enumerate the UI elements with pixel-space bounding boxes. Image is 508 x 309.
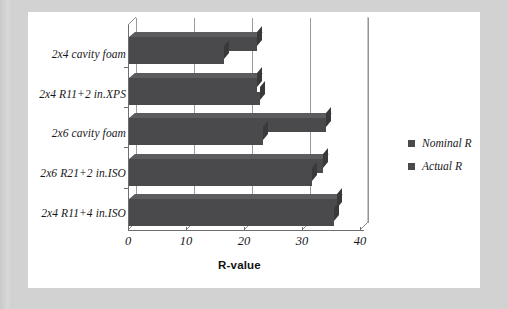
category-label-2: 2x6 cavity foam xyxy=(52,127,126,139)
x-tick-label-0: 0 xyxy=(113,234,143,249)
bar-nominal-2 xyxy=(129,118,326,132)
x-tick-2 xyxy=(244,227,245,231)
legend-label-actual: Actual R xyxy=(422,160,462,172)
bar-nominal-1 xyxy=(129,78,257,92)
bar-actual-4 xyxy=(129,213,334,226)
legend-swatch-icon xyxy=(408,163,415,170)
category-label-4: 2x4 R11+4 in.ISO xyxy=(41,207,126,219)
y-tick-1 xyxy=(124,107,129,108)
bar-top-face xyxy=(129,154,329,159)
plot-area: 2x4 cavity foam 2x4 R11+2 in.XPS 2x6 cav… xyxy=(28,12,480,288)
y-tick-3 xyxy=(124,188,129,189)
y-tick-2 xyxy=(124,147,129,148)
chart-legend: Nominal R Actual R xyxy=(408,137,488,187)
x-tick-0 xyxy=(128,227,129,231)
x-tick-1 xyxy=(186,227,187,231)
legend-swatch-icon xyxy=(408,140,415,147)
chart-screenshot: 2x4 cavity foam 2x4 R11+2 in.XPS 2x6 cav… xyxy=(0,0,508,309)
bar-top-face xyxy=(129,73,263,78)
bar-nominal-4 xyxy=(129,199,337,213)
bar-actual-3 xyxy=(129,173,312,186)
bar-nominal-0 xyxy=(129,37,257,51)
page-edge-shadow xyxy=(0,0,13,309)
x-tick-label-4: 40 xyxy=(345,234,375,249)
x-axis-title: R-value xyxy=(218,259,261,271)
legend-item-nominal: Nominal R xyxy=(408,137,472,149)
bar-actual-1 xyxy=(129,92,260,105)
legend-label-nominal: Nominal R xyxy=(422,137,472,149)
category-label-3: 2x6 R21+2 in.ISO xyxy=(40,167,126,179)
bar-top-face xyxy=(129,194,343,199)
y-tick-0 xyxy=(124,67,129,68)
bar-actual-2 xyxy=(129,132,263,145)
chart-panel: 2x4 cavity foam 2x4 R11+2 in.XPS 2x6 cav… xyxy=(28,12,480,288)
bar-actual-0 xyxy=(129,51,224,64)
category-label-1: 2x4 R11+2 in.XPS xyxy=(39,88,126,100)
x-tick-4 xyxy=(360,227,361,231)
x-tick-label-3: 30 xyxy=(287,234,317,249)
bar-nominal-3 xyxy=(129,159,323,173)
bar-top-face xyxy=(129,113,332,118)
x-tick-label-2: 20 xyxy=(229,234,259,249)
x-tick-label-1: 10 xyxy=(171,234,201,249)
category-label-0: 2x4 cavity foam xyxy=(52,48,126,60)
x-tick-3 xyxy=(302,227,303,231)
legend-item-actual: Actual R xyxy=(408,160,462,172)
bar-top-face xyxy=(129,32,263,37)
